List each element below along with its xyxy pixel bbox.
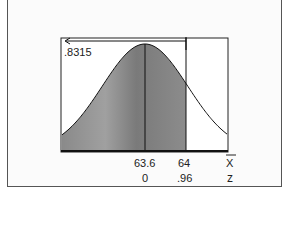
xbar-tick-mean: 63.6 — [134, 157, 155, 169]
z-tick-mean: 0 — [142, 172, 148, 184]
z-tick-value: .96 — [177, 172, 192, 184]
xbar-tick-value: 64 — [178, 157, 190, 169]
area-label: .8315 — [64, 46, 92, 58]
xbar-axis-label: X — [226, 157, 233, 169]
z-axis-label: z — [227, 172, 233, 184]
